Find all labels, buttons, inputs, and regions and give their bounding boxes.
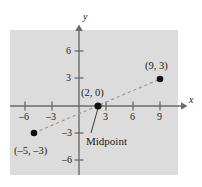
x-axis-arrowhead <box>181 102 188 110</box>
point-marker-midpoint <box>94 102 101 109</box>
point-label-midpoint: (2, 0) <box>81 88 104 99</box>
x-tick-label-neg3: –3 <box>46 112 56 122</box>
y-tick-label-neg6: –6 <box>62 155 72 165</box>
y-axis-label: y <box>83 12 87 22</box>
x-tick-label-9: 9 <box>157 112 162 122</box>
y-tick-label-3: 3 <box>66 73 71 83</box>
y-tick-label-6: 6 <box>66 46 71 56</box>
midpoint-coordinate-plane-figure: y x –6 –3 3 6 9 6 3 –3 –6 (–5, –3) (2, 0… <box>0 0 202 187</box>
y-axis <box>75 25 83 176</box>
midpoint-annotation-label: Midpoint <box>86 136 127 147</box>
y-axis-arrowhead <box>75 25 83 32</box>
y-tick-label-neg3: –3 <box>62 128 72 138</box>
x-tick-label-6: 6 <box>130 112 135 122</box>
x-axis-label: x <box>189 95 193 105</box>
midpoint-leader-line <box>91 108 98 133</box>
x-tick-label-3: 3 <box>103 112 108 122</box>
point-marker-right <box>157 76 164 83</box>
point-label-left: (–5, –3) <box>14 146 47 157</box>
point-label-right: (9, 3) <box>145 61 168 72</box>
point-marker-left <box>31 130 38 137</box>
x-tick-label-neg6: –6 <box>19 112 29 122</box>
